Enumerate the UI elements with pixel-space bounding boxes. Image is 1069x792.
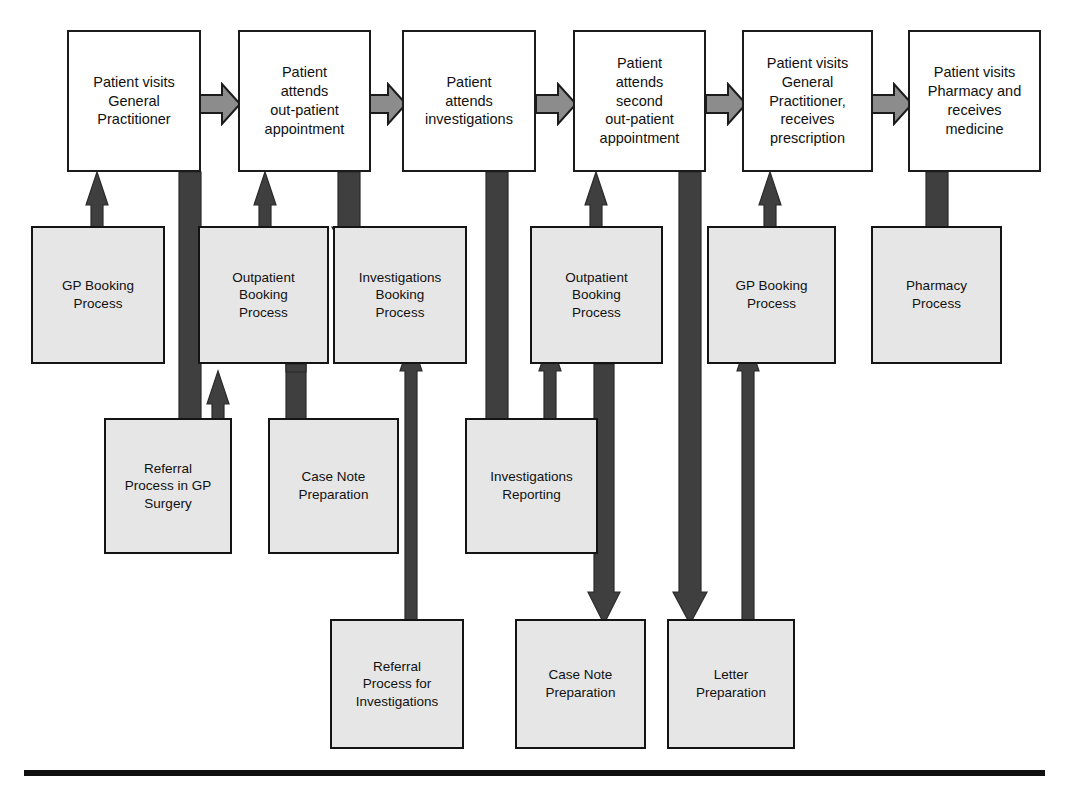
process-node-gp-visit[interactable]: Patient visits General Practitioner bbox=[67, 30, 201, 172]
process-node-investigations[interactable]: Patient attends investigations bbox=[402, 30, 536, 172]
node-label: Patient visits General Practitioner, rec… bbox=[763, 54, 852, 148]
subprocess-node-pharmacy-process[interactable]: Pharmacy Process bbox=[871, 226, 1002, 364]
process-node-outpatient-2[interactable]: Patient attends second out-patient appoi… bbox=[573, 30, 706, 172]
subprocess-node-referral-gp-surgery[interactable]: Referral Process in GP Surgery bbox=[104, 418, 232, 554]
arrow-referralinvestigations-to-investigationsbooking bbox=[400, 338, 422, 640]
subprocess-node-gp-booking-1[interactable]: GP Booking Process bbox=[31, 226, 165, 364]
flow-arrow-1 bbox=[200, 82, 240, 126]
subprocess-node-letter-prep[interactable]: Letter Preparation bbox=[667, 619, 795, 749]
node-label: Case Note Preparation bbox=[542, 666, 620, 701]
process-node-gp-prescription[interactable]: Patient visits General Practitioner, rec… bbox=[742, 30, 873, 172]
node-label: GP Booking Process bbox=[732, 277, 812, 312]
subprocess-node-outpatient-booking-1[interactable]: Outpatient Booking Process bbox=[198, 226, 329, 364]
node-label: Investigations Reporting bbox=[486, 468, 577, 503]
node-label: Letter Preparation bbox=[692, 666, 770, 701]
node-label: Investigations Booking Process bbox=[355, 269, 446, 322]
subprocess-node-referral-investigations[interactable]: Referral Process for Investigations bbox=[330, 619, 464, 749]
stub-outpatientbooking1-bottom bbox=[286, 364, 306, 372]
node-label: Patient attends out-patient appointment bbox=[261, 63, 349, 138]
process-node-pharmacy[interactable]: Patient visits Pharmacy and receives med… bbox=[908, 30, 1041, 172]
node-label: Referral Process in GP Surgery bbox=[121, 460, 215, 513]
arrow-outpatient2-to-letterprep bbox=[673, 172, 707, 624]
node-label: Outpatient Booking Process bbox=[561, 269, 631, 322]
node-label: Patient attends second out-patient appoi… bbox=[596, 54, 684, 148]
node-label: Referral Process for Investigations bbox=[352, 658, 443, 711]
arrow-investigations-to-investigationsreporting bbox=[480, 172, 514, 452]
flow-arrow-5 bbox=[872, 82, 912, 126]
node-label: Outpatient Booking Process bbox=[228, 269, 298, 322]
subprocess-node-outpatient-booking-2[interactable]: Outpatient Booking Process bbox=[530, 226, 663, 364]
node-label: Case Note Preparation bbox=[295, 468, 373, 503]
node-label: Patient attends investigations bbox=[421, 73, 517, 130]
subprocess-node-gp-booking-2[interactable]: GP Booking Process bbox=[707, 226, 836, 364]
subprocess-node-investigations-report[interactable]: Investigations Reporting bbox=[465, 418, 598, 554]
subprocess-node-investigations-booking[interactable]: Investigations Booking Process bbox=[333, 226, 467, 364]
process-node-outpatient-1[interactable]: Patient attends out-patient appointment bbox=[238, 30, 371, 172]
flow-arrow-3 bbox=[536, 82, 576, 126]
flow-arrow-2 bbox=[366, 82, 406, 126]
node-label: Patient visits Pharmacy and receives med… bbox=[924, 63, 1026, 138]
node-label: GP Booking Process bbox=[58, 277, 138, 312]
arrow-letterprep-to-gpbooking2 bbox=[737, 338, 759, 628]
node-label: Pharmacy Process bbox=[902, 277, 971, 312]
subprocess-node-case-note-prep-1[interactable]: Case Note Preparation bbox=[268, 418, 399, 554]
node-label: Patient visits General Practitioner bbox=[89, 73, 178, 130]
flow-arrow-4 bbox=[706, 82, 746, 126]
process-map-canvas: Patient visits General Practitioner Pati… bbox=[0, 0, 1069, 792]
subprocess-node-case-note-prep-2[interactable]: Case Note Preparation bbox=[515, 619, 646, 749]
